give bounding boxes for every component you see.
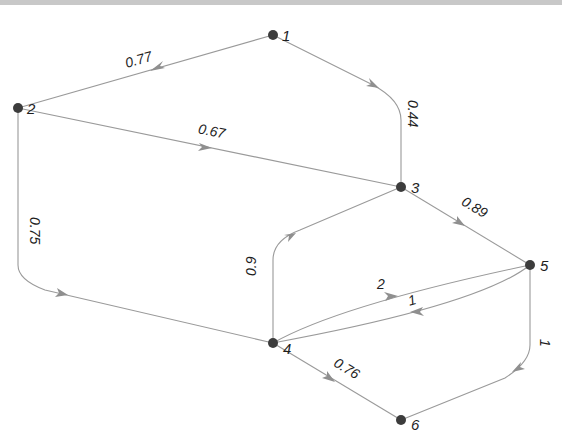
edge-1-2: 0.77: [18, 35, 273, 108]
node-dot: [396, 182, 406, 192]
graph-canvas: 0.77 0.44 0.67 0.75 0.89 0.9 2 1: [0, 0, 562, 441]
arrow-icon: [322, 371, 335, 382]
node-dot: [268, 30, 278, 40]
edge-4-6: 0.76: [273, 343, 401, 420]
edge-weight-label: 1: [406, 291, 418, 308]
edge-weight-label: 0.9: [243, 256, 259, 276]
node-3: 3: [396, 179, 420, 196]
edge-weight-label: 0.76: [331, 354, 363, 382]
arrow-icon: [452, 216, 465, 226]
arrow-icon: [384, 292, 398, 301]
edge-weight-label: 1: [537, 339, 553, 347]
node-label: 3: [411, 179, 420, 196]
edge-4-3: 0.9: [243, 187, 401, 343]
edge-weight-label: 0.77: [123, 48, 155, 71]
edge-2-3: 0.67: [18, 108, 401, 187]
node-label: 6: [411, 416, 420, 433]
edge-weight-label: 0.44: [405, 100, 421, 127]
node-2: 2: [13, 100, 36, 117]
edge-weight-label: 0.75: [27, 217, 43, 244]
node-label: 1: [282, 27, 290, 44]
node-dot: [525, 260, 535, 270]
edge-5-6: 1: [401, 265, 553, 420]
edge-5-4: 1: [273, 265, 530, 343]
edge-weight-label: 2: [376, 276, 385, 292]
node-dot: [268, 338, 278, 348]
node-label: 5: [540, 257, 549, 274]
edge-2-4: 0.75: [18, 108, 273, 343]
arrow-icon: [198, 143, 212, 151]
node-label: 2: [26, 100, 36, 117]
node-dot: [396, 415, 406, 425]
node-1: 1: [268, 27, 290, 44]
node-dot: [13, 103, 23, 113]
node-label: 4: [283, 340, 291, 357]
edge-4-5: 2: [273, 265, 530, 343]
node-5: 5: [525, 257, 549, 274]
edge-3-5: 0.89: [401, 187, 530, 265]
arrow-icon: [410, 307, 424, 316]
edge-weight-label: 0.89: [459, 193, 491, 221]
edge-weight-label: 0.67: [197, 120, 228, 141]
edge-1-3: 0.44: [273, 35, 421, 187]
